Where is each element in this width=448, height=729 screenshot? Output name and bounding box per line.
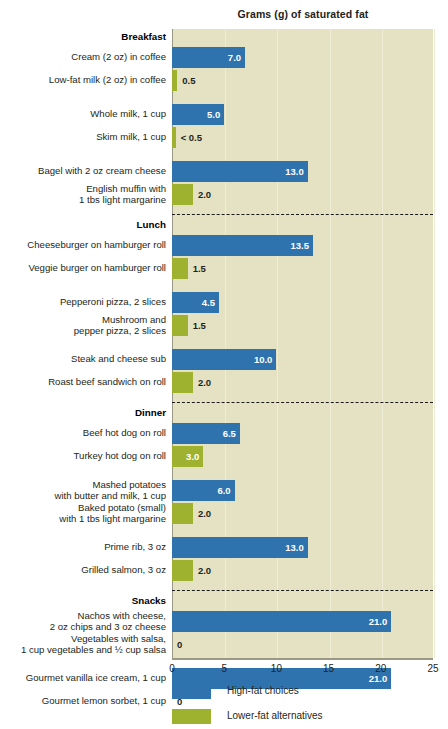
bar-value-label: 1.5 bbox=[193, 264, 206, 274]
item-label: Bagel with 2 oz cream cheese bbox=[0, 165, 166, 176]
bar-value-label: 21.0 bbox=[369, 674, 388, 684]
saturated-fat-chart: Grams (g) of saturated fat Breakfast7.0C… bbox=[0, 0, 448, 729]
bar-value-label: 5.0 bbox=[207, 110, 220, 120]
bar bbox=[172, 611, 391, 632]
item-label: Grilled salmon, 3 oz bbox=[0, 564, 166, 575]
bar-value-label: 13.0 bbox=[285, 167, 304, 177]
item-label: Cream (2 oz) in coffee bbox=[0, 51, 166, 62]
gridline bbox=[225, 29, 226, 658]
x-axis-tick: 0 bbox=[157, 663, 187, 674]
x-axis-tick: 10 bbox=[261, 663, 291, 674]
item-label: Turkey hot dog on roll bbox=[0, 450, 166, 461]
category-label-dinner: Dinner bbox=[0, 407, 166, 418]
bar bbox=[172, 560, 193, 581]
item-label: Mashed potatoes with butter and milk, 1 … bbox=[0, 479, 166, 502]
item-label: Skim milk, 1 cup bbox=[0, 131, 166, 142]
bar-value-label: 1.5 bbox=[193, 321, 206, 331]
bar-value-label: 7.0 bbox=[228, 53, 241, 63]
item-label: Prime rib, 3 oz bbox=[0, 541, 166, 552]
bar-value-label: 0 bbox=[177, 640, 182, 650]
legend-swatch bbox=[172, 684, 211, 699]
gridline bbox=[382, 29, 383, 658]
item-label: Whole milk, 1 cup bbox=[0, 108, 166, 119]
item-label: Veggie burger on hamburger roll bbox=[0, 262, 166, 273]
bar bbox=[172, 127, 176, 148]
group-separator bbox=[172, 402, 433, 403]
bar-value-label: 2.0 bbox=[198, 566, 211, 576]
bar bbox=[172, 315, 188, 336]
bar bbox=[172, 372, 193, 393]
item-label: Low-fat milk (2 oz) in coffee bbox=[0, 74, 166, 85]
bar-value-label: 0.5 bbox=[182, 76, 195, 86]
bar-value-label: 6.0 bbox=[217, 486, 230, 496]
bar-value-label: 6.5 bbox=[223, 429, 236, 439]
bar bbox=[172, 258, 188, 279]
bar-value-label: 13.0 bbox=[285, 543, 304, 553]
bar-value-label: 2.0 bbox=[198, 378, 211, 388]
bar bbox=[172, 70, 177, 91]
legend-swatch bbox=[172, 709, 211, 724]
bar bbox=[172, 184, 193, 205]
bar-value-label: 4.5 bbox=[202, 298, 215, 308]
bar-value-label: 10.0 bbox=[254, 355, 273, 365]
x-axis-tick: 5 bbox=[209, 663, 239, 674]
bar-value-label: 2.0 bbox=[198, 509, 211, 519]
category-label-breakfast: Breakfast bbox=[0, 31, 166, 42]
bar-value-label: 13.5 bbox=[290, 241, 309, 251]
item-label: Vegetables with salsa, 1 cup vegetables … bbox=[0, 633, 166, 656]
item-label: English muffin with 1 tbs light margarin… bbox=[0, 183, 166, 206]
gridline bbox=[330, 29, 331, 658]
x-axis-line bbox=[172, 658, 433, 660]
bar-value-label: < 0.5 bbox=[181, 133, 202, 143]
group-separator bbox=[172, 590, 433, 591]
item-label: Gourmet vanilla ice cream, 1 cup bbox=[0, 672, 166, 683]
bar-value-label: 21.0 bbox=[369, 617, 388, 627]
item-label: Cheeseburger on hamburger roll bbox=[0, 239, 166, 250]
category-label-snacks: Snacks bbox=[0, 595, 166, 606]
item-label: Mushroom and pepper pizza, 2 slices bbox=[0, 314, 166, 337]
item-label: Baked potato (small) with 1 tbs light ma… bbox=[0, 502, 166, 525]
gridline bbox=[434, 29, 435, 658]
legend-label: High-fat choices bbox=[227, 685, 299, 696]
legend-label: Lower-fat alternatives bbox=[227, 710, 323, 721]
item-label: Pepperoni pizza, 2 slices bbox=[0, 296, 166, 307]
x-axis-tick: 15 bbox=[314, 663, 344, 674]
gridline bbox=[277, 29, 278, 658]
item-label: Roast beef sandwich on roll bbox=[0, 376, 166, 387]
bar-value-label: 3.0 bbox=[186, 452, 199, 462]
item-label: Steak and cheese sub bbox=[0, 353, 166, 364]
x-axis-tick: 20 bbox=[366, 663, 396, 674]
x-axis-tick: 25 bbox=[418, 663, 448, 674]
bar bbox=[172, 503, 193, 524]
item-label: Gourmet lemon sorbet, 1 cup bbox=[0, 695, 166, 706]
item-label: Nachos with cheese, 2 oz chips and 3 oz … bbox=[0, 610, 166, 633]
bar-value-label: 2.0 bbox=[198, 190, 211, 200]
item-label: Beef hot dog on roll bbox=[0, 427, 166, 438]
group-separator bbox=[172, 214, 433, 215]
chart-title: Grams (g) of saturated fat bbox=[172, 8, 434, 20]
category-label-lunch: Lunch bbox=[0, 219, 166, 230]
